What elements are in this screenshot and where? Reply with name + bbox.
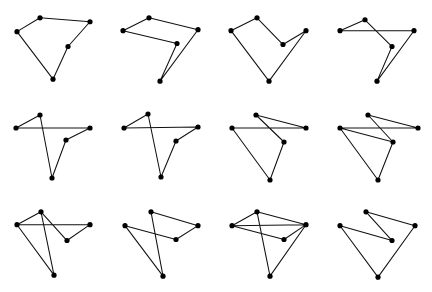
vertex-point	[87, 125, 92, 130]
vertex-point	[303, 125, 308, 130]
polygon-path	[124, 114, 198, 177]
vertex-point	[63, 137, 68, 142]
vertex-point	[158, 174, 163, 179]
vertex-point	[122, 223, 127, 228]
vertex-point	[195, 124, 200, 129]
vertex-point	[121, 125, 126, 130]
vertex-point	[87, 19, 92, 24]
panel-canvas	[108, 97, 216, 195]
vertex-point	[145, 111, 150, 116]
vertex-point	[389, 44, 394, 49]
vertex-point	[157, 79, 162, 84]
vertex-point	[374, 79, 379, 84]
vertex-point	[195, 223, 200, 228]
panel-6	[108, 97, 216, 195]
panel-10	[108, 195, 216, 292]
vertex-point	[303, 28, 308, 33]
panel-5	[0, 97, 108, 195]
vertex-point	[267, 274, 272, 279]
panel-canvas	[0, 195, 108, 292]
vertex-point	[160, 274, 165, 279]
panel-1	[0, 0, 108, 97]
polygon-path	[125, 212, 198, 276]
vertex-point	[280, 42, 285, 47]
panel-canvas	[216, 97, 324, 195]
vertex-point	[375, 177, 380, 182]
vertex-point	[14, 222, 19, 227]
vertex-point	[337, 28, 342, 33]
vertex-point	[266, 79, 271, 84]
vertex-point	[173, 237, 178, 242]
vertex-point	[228, 28, 233, 33]
vertex-point	[375, 275, 380, 280]
panel-canvas	[216, 195, 324, 292]
vertex-point	[120, 28, 125, 33]
vertex-point	[254, 209, 259, 214]
vertex-point	[13, 125, 18, 130]
polygon-path	[340, 212, 415, 277]
vertex-point	[229, 125, 234, 130]
panel-9	[0, 195, 108, 292]
vertex-point	[267, 177, 272, 182]
vertex-point	[362, 17, 367, 22]
panel-canvas	[324, 97, 432, 195]
panel-4	[324, 0, 432, 97]
panel-8	[324, 97, 432, 195]
vertex-point	[195, 27, 200, 32]
vertex-point	[254, 15, 259, 20]
panel-canvas	[108, 0, 216, 97]
panel-2	[108, 0, 216, 97]
panel-7	[216, 97, 324, 195]
vertex-point	[49, 175, 54, 180]
vertex-point	[174, 41, 179, 46]
polygon-path	[340, 115, 418, 180]
vertex-point	[37, 112, 42, 117]
vertex-point	[146, 15, 151, 20]
vertex-point	[411, 28, 416, 33]
vertex-point	[390, 139, 395, 144]
vertex-point	[65, 44, 70, 49]
panel-canvas	[108, 195, 216, 292]
vertex-point	[281, 139, 286, 144]
polygon-path	[232, 115, 306, 180]
vertex-point	[51, 273, 56, 278]
vertex-point	[415, 125, 420, 130]
panel-canvas	[324, 0, 432, 97]
vertex-point	[50, 77, 55, 82]
polygon-path	[123, 18, 198, 81]
vertex-point	[37, 15, 42, 20]
panel-grid	[0, 0, 432, 292]
panel-canvas	[0, 97, 108, 195]
polygon-path	[232, 212, 306, 276]
vertex-point	[281, 237, 286, 242]
vertex-point	[365, 112, 370, 117]
panel-11	[216, 195, 324, 292]
vertex-point	[389, 238, 394, 243]
vertex-point	[38, 209, 43, 214]
vertex-point	[229, 223, 234, 228]
polygon-path	[17, 18, 90, 79]
vertex-point	[337, 223, 342, 228]
vertex-point	[253, 112, 258, 117]
figure-root	[0, 0, 432, 292]
polygon-path	[17, 212, 90, 275]
vertex-point	[363, 209, 368, 214]
vertex-point	[64, 238, 69, 243]
panel-3	[216, 0, 324, 97]
vertex-point	[14, 29, 19, 34]
polygon-path	[231, 18, 306, 81]
panel-canvas	[324, 195, 432, 292]
vertex-point	[148, 209, 153, 214]
vertex-point	[412, 223, 417, 228]
vertex-point	[173, 138, 178, 143]
vertex-point	[337, 125, 342, 130]
panel-12	[324, 195, 432, 292]
vertex-point	[303, 222, 308, 227]
panel-canvas	[0, 0, 108, 97]
vertex-point	[87, 222, 92, 227]
panel-canvas	[216, 0, 324, 97]
polygon-path	[16, 115, 90, 178]
polygon-path	[340, 20, 414, 81]
